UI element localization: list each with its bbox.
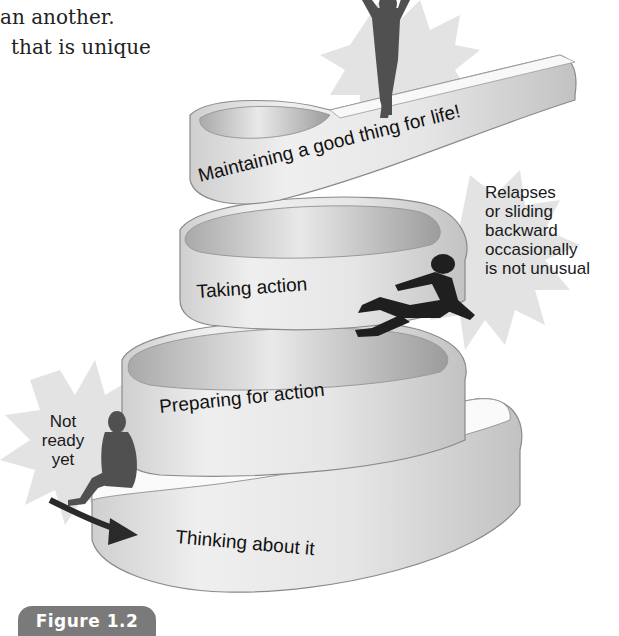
callout-relapse-line: backward — [485, 221, 590, 240]
callout-relapse: Relapses or sliding backward occasionall… — [485, 183, 590, 278]
callout-not-ready-line: ready — [28, 431, 98, 450]
callout-not-ready-line: yet — [28, 450, 98, 469]
callout-not-ready-line: Not — [28, 412, 98, 431]
callout-not-ready: Not ready yet — [28, 412, 98, 469]
callout-relapse-line: Relapses — [485, 183, 590, 202]
callout-relapse-line: occasionally — [485, 240, 590, 259]
figure-caption-badge: Figure 1.2 — [18, 606, 156, 636]
callout-relapse-line: is not unusual — [485, 259, 590, 278]
callout-relapse-line: or sliding — [485, 202, 590, 221]
